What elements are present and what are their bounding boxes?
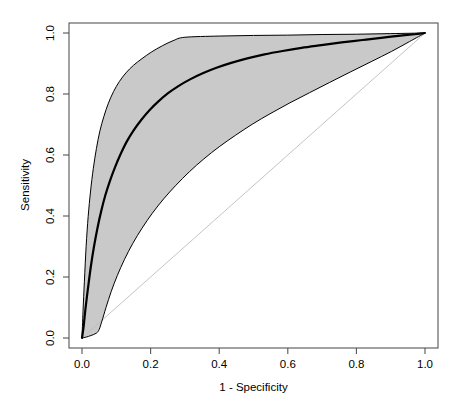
x-axis-tick-label: 0.0 <box>74 358 90 370</box>
x-axis-tick-label: 0.4 <box>211 358 228 370</box>
y-axis-tick-label: 0.8 <box>44 86 56 102</box>
y-axis-tick-label: 0.0 <box>44 330 56 346</box>
x-axis-tick-label: 0.8 <box>348 358 364 370</box>
y-axis-title: Sensitivity <box>19 159 31 211</box>
y-axis-tick-label: 1.0 <box>44 25 56 41</box>
roc-plot-figure: 0.00.20.40.60.81.0 0.00.20.40.60.81.0 1 … <box>0 0 463 410</box>
x-axis-title: 1 - Specificity <box>219 381 288 393</box>
x-axis-tick-label: 0.6 <box>280 358 296 370</box>
y-axis-tick-label: 0.2 <box>44 269 56 285</box>
x-axis-tick-label: 0.2 <box>143 358 159 370</box>
x-axis-tick-label: 1.0 <box>417 358 433 370</box>
y-axis-tick-label: 0.4 <box>44 207 56 224</box>
roc-plot-canvas: 0.00.20.40.60.81.0 0.00.20.40.60.81.0 1 … <box>0 0 463 410</box>
y-axis-tick-label: 0.6 <box>44 147 56 163</box>
